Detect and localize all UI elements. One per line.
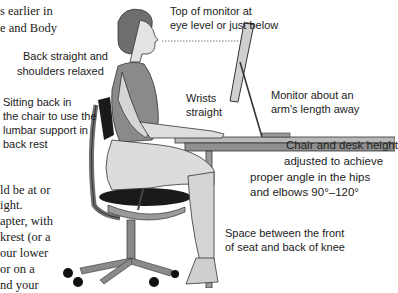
label-sitting-back-line3: lumbar support in bbox=[3, 123, 88, 138]
label-wrists-line1: Wrists bbox=[186, 91, 216, 106]
label-chair-desk-height-line1: Chair and desk height bbox=[286, 138, 398, 153]
monitor-icon bbox=[230, 23, 262, 137]
label-knee-space-line2: of seat and back of knee bbox=[225, 240, 345, 255]
label-sitting-back-line2: the chair to use the bbox=[3, 109, 97, 124]
label-chair-desk-height-line3: proper angle in the hips bbox=[250, 170, 370, 185]
label-sitting-back-line1: Sitting back in bbox=[3, 95, 71, 110]
label-monitor-distance-line2: arm's length away bbox=[271, 102, 359, 117]
label-wrists-line2: straight bbox=[186, 105, 222, 120]
label-chair-desk-height-line2: adjusted to achieve bbox=[284, 154, 383, 169]
label-top-of-monitor-line1: Top of monitor at bbox=[170, 4, 252, 19]
label-chair-desk-height-line4: and elbows 90°–120° bbox=[250, 185, 359, 200]
label-back-straight-line2: shoulders relaxed bbox=[17, 64, 104, 79]
label-sitting-back-line4: back rest bbox=[3, 137, 48, 152]
label-knee-space-line1: Space between the front bbox=[225, 226, 344, 241]
label-monitor-distance-line1: Monitor about an bbox=[271, 88, 354, 103]
label-back-straight-line1: Back straight and bbox=[23, 49, 108, 64]
label-top-of-monitor-line2: eye level or just below bbox=[170, 18, 278, 33]
